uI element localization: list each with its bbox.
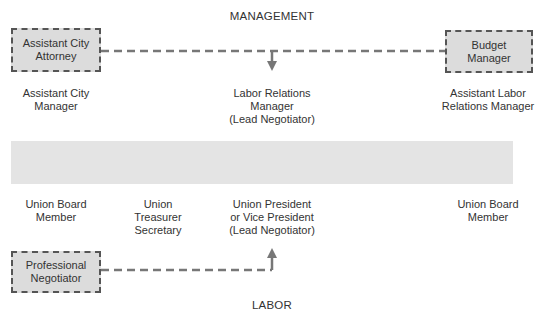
negotiation-table-band (11, 141, 513, 184)
member-line: Union Board (438, 198, 538, 211)
member-line: Relations Manager (428, 100, 545, 113)
assistant-labor-relations-manager: Assistant Labor Relations Manager (428, 87, 545, 113)
member-line: (Lead Negotiator) (212, 224, 332, 237)
box-line: Professional (26, 259, 87, 272)
union-board-member-left: Union Board Member (6, 198, 106, 224)
box-line: Budget (467, 39, 510, 52)
member-line: or Vice President (212, 211, 332, 224)
member-line: Manager (6, 100, 106, 113)
box-line: Assistant City (23, 37, 90, 50)
member-line: Labor Relations (212, 87, 332, 100)
member-line: Secretary (118, 224, 198, 237)
professional-negotiator-box: Professional Negotiator (11, 251, 101, 293)
union-treasurer-secretary: Union Treasurer Secretary (118, 198, 198, 237)
arrow-down-icon (267, 61, 277, 71)
member-line: Union (118, 198, 198, 211)
member-line: Manager (212, 100, 332, 113)
budget-manager-box: Budget Manager (445, 30, 533, 73)
member-line: Union President (212, 198, 332, 211)
assistant-city-attorney-box: Assistant City Attorney (11, 28, 101, 72)
member-line: Member (6, 211, 106, 224)
union-board-member-right: Union Board Member (438, 198, 538, 224)
member-line: Member (438, 211, 538, 224)
member-line: Union Board (6, 198, 106, 211)
member-line: Assistant Labor (428, 87, 545, 100)
arrow-up-icon (267, 248, 277, 258)
labor-relations-manager: Labor Relations Manager (Lead Negotiator… (212, 87, 332, 126)
box-line: Attorney (23, 50, 90, 63)
box-line: Negotiator (26, 272, 87, 285)
union-president: Union President or Vice President (Lead … (212, 198, 332, 237)
member-line: (Lead Negotiator) (212, 113, 332, 126)
member-line: Assistant City (6, 87, 106, 100)
member-line: Treasurer (118, 211, 198, 224)
assistant-city-manager: Assistant City Manager (6, 87, 106, 113)
box-line: Manager (467, 52, 510, 65)
